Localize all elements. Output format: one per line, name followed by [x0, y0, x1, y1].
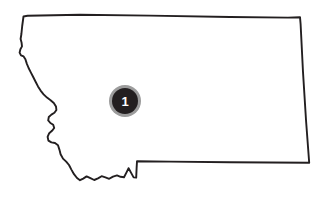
map-container: 1	[0, 0, 329, 198]
map-marker-1[interactable]: 1	[109, 85, 141, 117]
montana-state-map: 1	[0, 0, 329, 198]
marker-label: 1	[121, 94, 128, 109]
state-outline-montana	[20, 15, 310, 180]
